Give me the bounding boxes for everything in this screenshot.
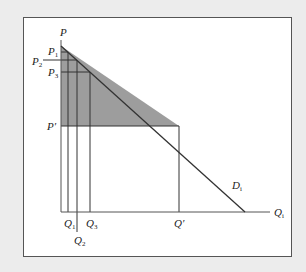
pprime-label: P′ [47,121,56,132]
q3-label: Q3 [86,218,97,231]
demand-diagram [0,0,306,272]
x-axis-label: Qi [274,207,284,220]
y-axis-label: P [60,27,67,38]
q2-label: Q2 [74,235,85,248]
qprime-label: Q′ [174,218,184,229]
p3-label: P3 [48,67,58,80]
q1-label: Q1 [64,218,75,231]
p1-label: P1 [48,46,58,59]
shaded-surplus-area [61,46,179,126]
demand-curve [61,46,245,212]
demand-curve-label: Di [232,180,242,193]
p2-label: P2 [32,56,42,69]
